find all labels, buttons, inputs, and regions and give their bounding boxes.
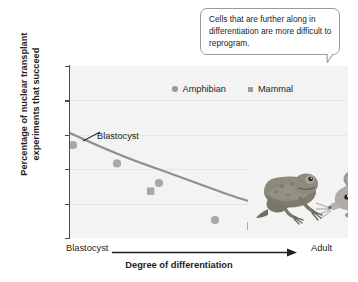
x-axis-end-label: Adult <box>311 243 332 253</box>
annotation-blastocyst: Blastocyst <box>97 131 139 141</box>
legend-item-mammal: Mammal <box>248 84 293 94</box>
animal-illustration <box>248 162 348 238</box>
legend-label: Amphibian <box>183 84 226 94</box>
legend-label: Mammal <box>258 84 293 94</box>
y-tick <box>65 100 70 101</box>
callout-tail-icon <box>326 53 335 64</box>
x-axis-title: Degree of differentiation <box>0 260 358 270</box>
square-marker-icon <box>248 87 253 92</box>
x-axis-arrow-icon <box>112 248 298 257</box>
x-axis-start-label: Blastocyst <box>66 243 108 253</box>
y-tick <box>65 169 70 170</box>
legend: Amphibian Mammal <box>172 84 293 94</box>
legend-item-amphibian: Amphibian <box>172 84 226 94</box>
callout-box: Cells that are further along in differen… <box>200 8 340 55</box>
circle-marker-icon <box>172 86 178 92</box>
y-tick <box>65 135 70 136</box>
y-axis-line <box>69 65 70 239</box>
y-tick <box>65 238 70 239</box>
y-axis-title: Percentage of nuclear transplant experim… <box>18 9 42 199</box>
callout-text: Cells that are further along in differen… <box>209 14 331 48</box>
y-tick <box>65 66 70 67</box>
y-tick <box>65 204 70 205</box>
figure-container: Cells that are further along in differen… <box>0 0 358 282</box>
